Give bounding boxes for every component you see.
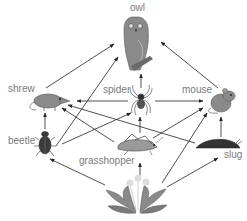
arrow-grasshopper-to-mouse [153, 108, 203, 138]
label-owl: owl [130, 3, 145, 13]
dandelion-illustration [106, 175, 167, 214]
arrow-mouse-to-owl [161, 42, 218, 88]
owl-illustration [124, 17, 153, 71]
slug-illustration [196, 139, 242, 148]
label-shrew: shrew [8, 84, 35, 94]
label-spider: spider [103, 85, 130, 95]
grasshopper-illustration [118, 134, 163, 155]
label-beetle: beetle [8, 136, 35, 146]
arrow-beetle-to-spider [62, 113, 131, 144]
shrew-illustration [30, 94, 70, 111]
food-web-diagram [0, 0, 247, 221]
arrow-dandelion-to-slug [167, 158, 218, 187]
label-grasshopper: grasshopper [79, 156, 135, 166]
arrow-grasshopper-to-shrew [62, 108, 114, 142]
arrow-shrew-to-owl [46, 44, 114, 88]
beetle-illustration [34, 132, 56, 157]
label-slug: slug [224, 150, 242, 160]
label-mouse: mouse [182, 85, 212, 95]
mouse-illustration [208, 89, 235, 114]
spider-illustration [130, 85, 152, 115]
